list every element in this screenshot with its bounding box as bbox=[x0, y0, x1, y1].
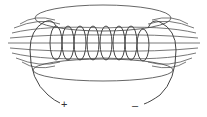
field-lines bbox=[8, 18, 200, 68]
positive-lead-wire bbox=[30, 22, 60, 103]
negative-terminal-label: – bbox=[132, 100, 138, 111]
negative-lead-wire bbox=[144, 22, 176, 104]
solenoid-figure bbox=[0, 0, 207, 117]
solenoid-diagram: + – bbox=[0, 0, 207, 117]
bottom-field-loop bbox=[33, 59, 173, 81]
top-field-loop bbox=[35, 5, 171, 31]
positive-terminal-label: + bbox=[61, 99, 67, 110]
